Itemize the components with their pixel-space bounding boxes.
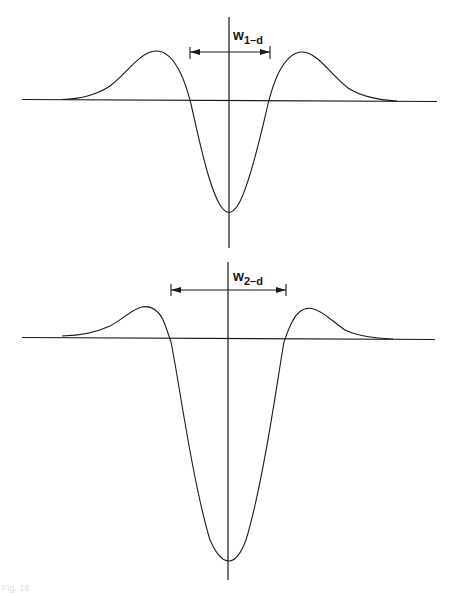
top-width-dimension xyxy=(190,46,270,59)
top-right-arrowhead-icon xyxy=(260,49,270,55)
bottom-width-label: w2–d xyxy=(232,268,263,287)
panel-bottom: w2–d xyxy=(22,262,435,580)
bottom-left-arrowhead-icon xyxy=(171,287,181,293)
bottom-right-arrowhead-icon xyxy=(276,287,286,293)
panel-top: w1–d xyxy=(22,17,437,248)
top-left-arrowhead-icon xyxy=(190,49,200,55)
top-width-label: w1–d xyxy=(232,27,263,46)
mexican-hat-diagram: w1–d w2–d xyxy=(0,0,455,596)
figure-caption: Fig. 16 xyxy=(2,583,30,593)
